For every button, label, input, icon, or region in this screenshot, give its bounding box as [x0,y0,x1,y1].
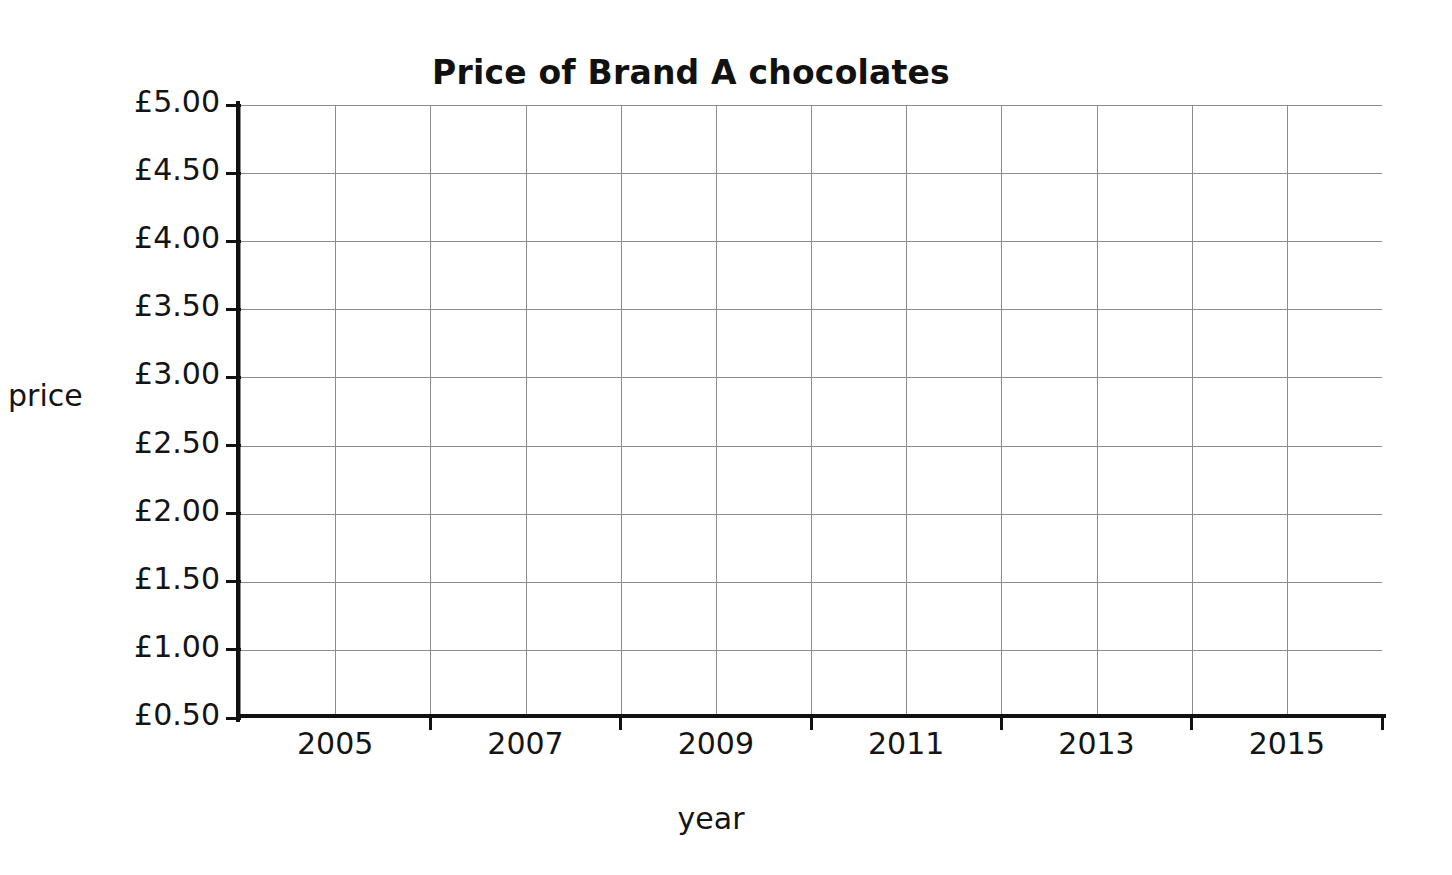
y-axis-tick-label: £0.50 [100,697,220,732]
y-axis-tick-label: £2.50 [100,425,220,460]
y-axis-tick-label: £1.50 [100,561,220,596]
y-axis-tick [226,172,241,175]
x-axis-tick-label: 2013 [1012,726,1182,761]
y-axis-line [236,101,240,722]
x-axis-tick [1381,714,1384,730]
y-axis-tick [226,648,241,651]
y-axis-tick [226,308,241,311]
x-axis-tick-label: 2005 [250,726,420,761]
y-axis-tick [226,512,241,515]
x-axis-tick [1000,714,1003,730]
y-axis-tick-label: £3.50 [100,288,220,323]
y-axis-tick-label: £4.00 [100,220,220,255]
y-axis-tick-label: £5.00 [100,84,220,119]
y-axis-tick [226,717,241,720]
vertical-gridlines [241,105,1383,718]
x-axis-tick [619,714,622,730]
gridlines [240,105,1382,718]
y-axis-tick-labels: £5.00£4.50£4.00£3.50£3.00£2.50£2.00£1.50… [96,0,220,875]
chart-title-text: Price of Brand A chocolates [432,53,950,92]
y-axis-title: price [8,378,83,413]
x-axis-tick [810,714,813,730]
y-axis-tick [226,444,241,447]
plot-area [240,105,1382,718]
x-axis-tick [1190,714,1193,730]
y-axis-tick [226,580,241,583]
y-axis-tick-label: £3.00 [100,356,220,391]
x-axis-title-text: year [678,801,745,836]
x-axis-tick-label: 2009 [631,726,801,761]
y-axis-tick-label: £2.00 [100,493,220,528]
y-axis-tick [226,240,241,243]
y-axis-tick [226,104,241,107]
x-axis-title: year [0,801,1452,836]
chart-container: Price of Brand A chocolates £5.00£4.50£4… [0,0,1452,875]
y-axis-tick-label: £4.50 [100,152,220,187]
y-axis-tick [226,376,241,379]
x-axis-tick-label: 2015 [1202,726,1372,761]
x-axis-tick [429,714,432,730]
x-axis-tick-label: 2011 [821,726,991,761]
y-axis-tick-label: £1.00 [100,629,220,664]
x-axis-tick-label: 2007 [441,726,611,761]
